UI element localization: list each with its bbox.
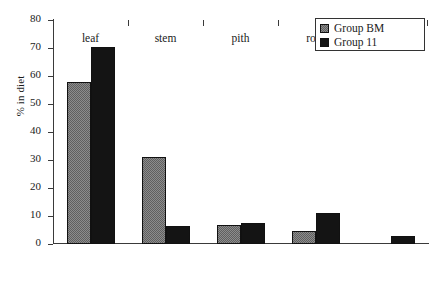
y-axis-tick-label: 40 (17, 124, 41, 136)
chart-legend: Group BM Group 11 (315, 18, 425, 51)
bar (166, 226, 190, 244)
y-axis-tick-label: 0 (17, 236, 41, 248)
x-axis-category-label: leaf (53, 32, 128, 44)
legend-swatch-group-bm (320, 24, 329, 33)
y-axis-tick: 10 (48, 216, 53, 217)
y-axis-tick: 0 (48, 244, 53, 245)
y-axis-tick: 60 (48, 76, 53, 77)
bar (292, 231, 316, 244)
bar (391, 236, 415, 244)
y-axis-tick-label: 20 (17, 180, 41, 192)
x-axis-tick (278, 20, 279, 26)
y-axis-tick-label: 70 (17, 40, 41, 52)
y-axis-tick: 40 (48, 132, 53, 133)
legend-item-group-bm: Group BM (320, 21, 420, 35)
y-axis-tick: 20 (48, 188, 53, 189)
legend-label-group-11: Group 11 (334, 36, 377, 49)
bar-chart: % in diet 01020304050607080leafstempithr… (0, 0, 437, 284)
bar (67, 82, 91, 244)
x-axis-tick (427, 20, 428, 26)
y-axis-tick-label: 10 (17, 208, 41, 220)
legend-item-group-11: Group 11 (320, 35, 420, 49)
legend-swatch-group-11 (320, 38, 329, 47)
y-axis-tick: 30 (48, 160, 53, 161)
bar (91, 47, 115, 244)
y-axis-tick: 50 (48, 104, 53, 105)
x-axis-tick (128, 20, 129, 26)
y-axis-tick-label: 30 (17, 152, 41, 164)
y-axis-tick: 80 (48, 20, 53, 21)
y-axis-tick-label: 50 (17, 96, 41, 108)
x-axis-tick (203, 20, 204, 26)
bar (217, 225, 241, 244)
y-axis-tick: 70 (48, 48, 53, 49)
bar (241, 223, 265, 244)
x-axis-category-label: stem (128, 32, 203, 44)
bar (316, 213, 340, 244)
x-axis-category-label: pith (203, 32, 278, 44)
y-axis-tick-label: 60 (17, 68, 41, 80)
legend-label-group-bm: Group BM (334, 22, 384, 35)
bar (142, 157, 166, 244)
plot-area: 01020304050607080leafstempithrootshoot (53, 20, 428, 244)
y-axis-tick-label: 80 (17, 12, 41, 24)
